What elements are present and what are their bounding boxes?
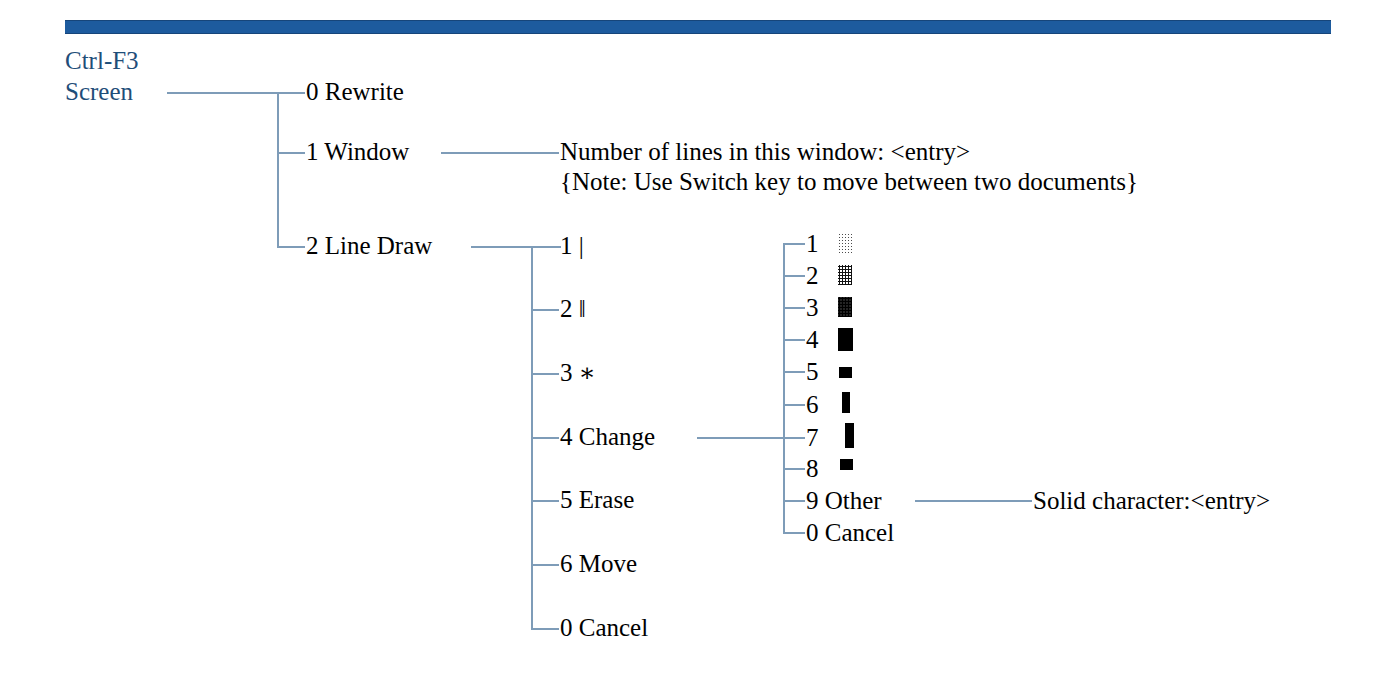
level1-stub-0 — [277, 92, 305, 94]
change-item-other[interactable]: 9 Other — [806, 487, 882, 515]
change-item-7[interactable]: 7 — [806, 424, 819, 452]
window-switch-note: {Note: Use Switch key to move between tw… — [560, 168, 1138, 196]
level2-stub-3 — [531, 373, 559, 375]
pattern-swatch-8-icon — [840, 459, 853, 470]
window-lines-prompt: Number of lines in this window: <entry> — [560, 138, 970, 166]
root-shortcut: Ctrl-F3 — [65, 47, 139, 75]
level3-stub-8 — [783, 468, 805, 470]
change-item-3[interactable]: 3 — [806, 294, 819, 322]
pattern-swatch-7-icon — [845, 423, 854, 448]
pattern-swatch-2-icon — [838, 265, 852, 285]
level2-stub-4 — [531, 437, 559, 439]
level3-stub-2 — [783, 275, 805, 277]
linedraw-item-change[interactable]: 4 Change — [560, 423, 655, 451]
menu-tree-diagram: Ctrl-F3 Screen 0 Rewrite 1 Window 2 Line… — [0, 0, 1396, 674]
level3-trunk — [783, 243, 785, 533]
level2-stub-0 — [531, 628, 559, 630]
level2-stub-2 — [531, 309, 559, 311]
level2-stub-6 — [531, 564, 559, 566]
pattern-swatch-5-icon — [839, 367, 852, 378]
window-detail-line — [441, 152, 559, 154]
level3-stub-1 — [783, 243, 805, 245]
menu-item-rewrite[interactable]: 0 Rewrite — [306, 78, 404, 106]
pattern-swatch-6-icon — [842, 392, 850, 413]
change-item-1[interactable]: 1 — [806, 230, 819, 258]
linedraw-item-single[interactable]: 1 | — [560, 232, 584, 260]
pattern-swatch-1-icon — [838, 233, 852, 253]
level3-stub-9 — [783, 500, 805, 502]
other-detail-line — [915, 500, 1032, 502]
level3-stub-0 — [783, 532, 805, 534]
change-stem — [697, 437, 785, 439]
change-item-5[interactable]: 5 — [806, 358, 819, 386]
linedraw-item-cancel[interactable]: 0 Cancel — [560, 614, 648, 642]
linedraw-item-asterisk[interactable]: 3 ∗ — [560, 359, 596, 387]
pattern-swatch-4-icon — [838, 328, 853, 351]
change-item-8[interactable]: 8 — [806, 455, 819, 483]
level1-stub-1 — [277, 152, 305, 154]
linedraw-item-erase[interactable]: 5 Erase — [560, 486, 634, 514]
change-item-6[interactable]: 6 — [806, 391, 819, 419]
level2-stub-5 — [531, 500, 559, 502]
level1-trunk — [277, 92, 279, 247]
level3-stub-3 — [783, 307, 805, 309]
root-stem-line — [167, 92, 279, 94]
change-item-2[interactable]: 2 — [806, 262, 819, 290]
menu-item-window[interactable]: 1 Window — [306, 138, 409, 166]
level2-stub-1 — [531, 246, 559, 248]
root-name: Screen — [65, 78, 133, 106]
level3-stub-6 — [783, 404, 805, 406]
pattern-swatch-3-icon — [838, 297, 852, 317]
header-rule — [65, 20, 1331, 34]
change-item-4[interactable]: 4 — [806, 326, 819, 354]
level3-stub-5 — [783, 371, 805, 373]
menu-item-line-draw[interactable]: 2 Line Draw — [306, 232, 432, 260]
linedraw-item-move[interactable]: 6 Move — [560, 550, 637, 578]
solid-character-prompt: Solid character:<entry> — [1033, 487, 1270, 515]
level3-stub-7 — [783, 437, 805, 439]
level3-stub-4 — [783, 339, 805, 341]
linedraw-item-double[interactable]: 2 ‖ — [560, 295, 586, 323]
level1-stub-2 — [277, 246, 305, 248]
change-item-cancel[interactable]: 0 Cancel — [806, 519, 894, 547]
